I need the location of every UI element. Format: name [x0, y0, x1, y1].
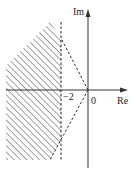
origin-label: 0 — [91, 95, 96, 106]
imaginary-axis — [86, 9, 91, 168]
im-axis-label: Im — [73, 6, 84, 17]
hatched-region — [0, 0, 136, 173]
dashed-ray-upper — [61, 38, 88, 90]
arrow-up-icon — [86, 9, 91, 17]
complex-plane-diagram: Im Re 0 −2 — [0, 0, 136, 173]
re-axis-label: Re — [117, 95, 129, 106]
minus-two-label: −2 — [63, 91, 74, 102]
arrow-right-icon — [120, 88, 128, 93]
